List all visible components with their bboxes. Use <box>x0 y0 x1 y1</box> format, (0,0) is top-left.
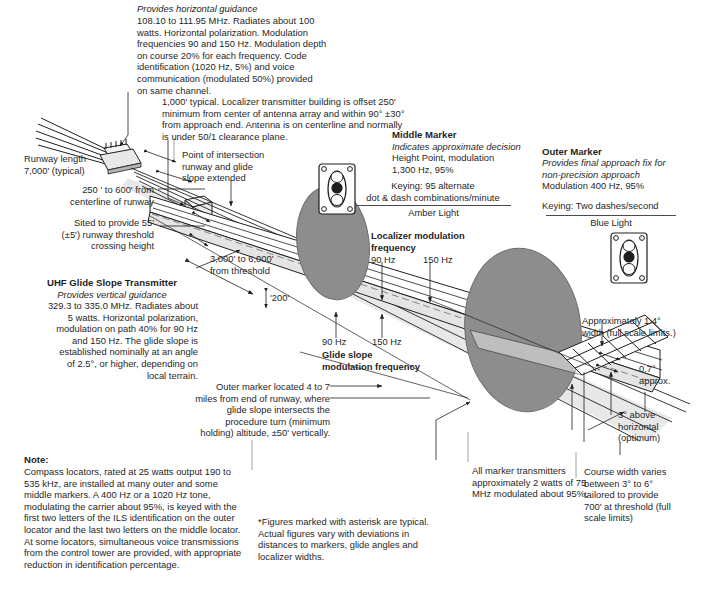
above-horizontal-callout: 3° above horizontal (optimum) <box>618 409 698 444</box>
threshold-crossing-callout: Sited to provide 55' (±5') runway thresh… <box>22 217 154 252</box>
localizer-callout-italic: Provides horizontal guidance <box>137 3 377 15</box>
glide-slope-modulation-90hz: 90 Hz <box>322 336 368 348</box>
half-width-callout: 0.7° approx. <box>639 363 695 386</box>
middle-marker-divider <box>356 205 511 206</box>
localizer-callout-body: 108.10 to 111.95 MHz. Radiates about 100… <box>137 15 387 96</box>
note-body: Compass locators, rated at 25 watts outp… <box>24 466 248 570</box>
outer-marker-body: Modulation 400 Hz, 95% <box>542 180 698 192</box>
asterisk-note: *Figures marked with asterisk are typica… <box>258 516 448 562</box>
glide-slope-transmitter-body: 329.3 to 335.0 MHz. Radiates about 5 wat… <box>18 300 198 381</box>
glide-slope-modulation-title: Glide slope modulation frequency <box>322 349 472 372</box>
runway-length-callout: Runway length 7,000' (typical) <box>24 153 132 176</box>
note-title: Note: <box>24 454 144 466</box>
middle-marker-keying: Keying: 95 alternate dot & dash combinat… <box>338 180 528 203</box>
two-hundred-feet-label: '200' <box>270 292 310 304</box>
offset-distance-callout: 250 ' to 600' from centerline of runway <box>22 184 154 207</box>
glide-slope-modulation-150hz: 150 Hz <box>372 336 422 348</box>
localizer-modulation-90hz: 90 Hz <box>371 254 417 266</box>
outer-marker-divider <box>546 215 676 216</box>
glide-slope-transmitter-italic: Provides vertical guidance <box>26 289 198 301</box>
marker-transmitters-callout: All marker transmitters approximately 2 … <box>472 465 608 500</box>
middle-marker-title: Middle Marker <box>392 129 552 141</box>
glide-slope-transmitter-title: UHF Glide Slope Transmitter <box>26 277 198 289</box>
middle-marker-italic: Indicates approximate decision <box>392 141 562 153</box>
beam-width-callout: Approximately 1.4° width (full scale lim… <box>582 315 700 338</box>
distance-from-threshold-callout: 3,000' to 6,000' from threshold <box>210 253 320 276</box>
outer-marker-beacon-icon <box>610 232 648 284</box>
point-of-intersection-callout: Point of intersection runway and glide s… <box>182 149 292 184</box>
outer-marker-italic: Provides final approach fix for non-prec… <box>542 157 698 180</box>
localizer-modulation-150hz: 150 Hz <box>423 254 473 266</box>
outer-marker-keying: Keying: Two dashes/second <box>542 200 701 212</box>
middle-marker-light: Amber Light <box>356 207 511 219</box>
middle-marker-body: Height Point, modulation 1,300 Hz, 95% <box>392 152 552 175</box>
outer-marker-light: Blue Light <box>546 217 676 229</box>
outer-marker-location-callout: Outer marker located 4 to 7 miles from e… <box>170 381 330 439</box>
outer-marker-title: Outer Marker <box>542 146 692 158</box>
localizer-modulation-title: Localizer modulation frequency <box>371 230 511 253</box>
